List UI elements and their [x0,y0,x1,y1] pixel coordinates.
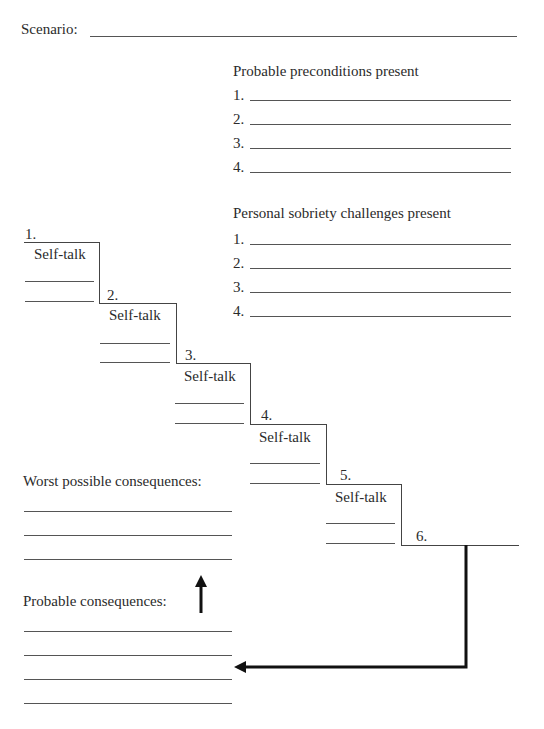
arrow-up-icon [195,575,207,613]
arrow-left-icon [234,545,466,673]
arrows-layer [0,0,544,729]
